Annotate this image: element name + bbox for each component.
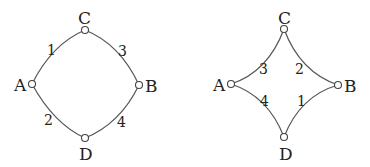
- diagram-canvas: A C B D 1 2 3 4 A C B D 3 2 4 1: [0, 0, 370, 167]
- edge-a-c: [32, 30, 85, 84]
- edge-label-1: 1: [47, 42, 56, 58]
- edge-c-b: [85, 30, 139, 85]
- edge-a-c: [231, 29, 284, 84]
- edge-label-3: 3: [118, 43, 127, 59]
- node-label-b: B: [344, 76, 357, 96]
- edge-label-2: 2: [295, 61, 304, 77]
- node-label-d: D: [79, 144, 93, 164]
- edge-d-b: [85, 85, 139, 138]
- node-b: [335, 82, 342, 89]
- diagram-concave: A C B D 3 2 4 1: [212, 8, 357, 164]
- edge-a-d: [231, 84, 284, 137]
- node-label-a: A: [212, 75, 226, 95]
- edge-label-3: 3: [259, 61, 268, 77]
- edge-c-b: [284, 29, 338, 85]
- edge-label-2: 2: [44, 112, 53, 128]
- node-d: [281, 134, 288, 141]
- edge-label-1: 1: [297, 93, 306, 109]
- node-label-d: D: [279, 144, 293, 164]
- node-label-c: C: [78, 8, 91, 28]
- edge-a-d: [32, 84, 85, 138]
- node-a: [228, 81, 235, 88]
- node-label-c: C: [278, 8, 291, 28]
- diagram-convex: A C B D 1 2 3 4: [13, 8, 158, 164]
- edge-label-4: 4: [117, 114, 126, 130]
- edge-label-4: 4: [260, 93, 269, 109]
- node-b: [136, 82, 143, 89]
- node-d: [82, 135, 89, 142]
- node-label-b: B: [145, 76, 158, 96]
- edge-d-b: [284, 85, 338, 137]
- node-label-a: A: [13, 75, 27, 95]
- node-a: [29, 81, 36, 88]
